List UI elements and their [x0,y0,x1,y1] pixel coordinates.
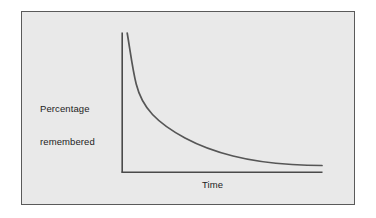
y-axis-label-line-1: Percentage [40,103,95,114]
forgetting-curve [127,33,322,166]
y-axis-label: Percentage remembered [40,81,95,169]
x-axis-label: Time [202,179,223,190]
chart-figure: Percentage remembered Time [0,0,376,218]
y-axis-label-line-2: remembered [40,136,95,147]
